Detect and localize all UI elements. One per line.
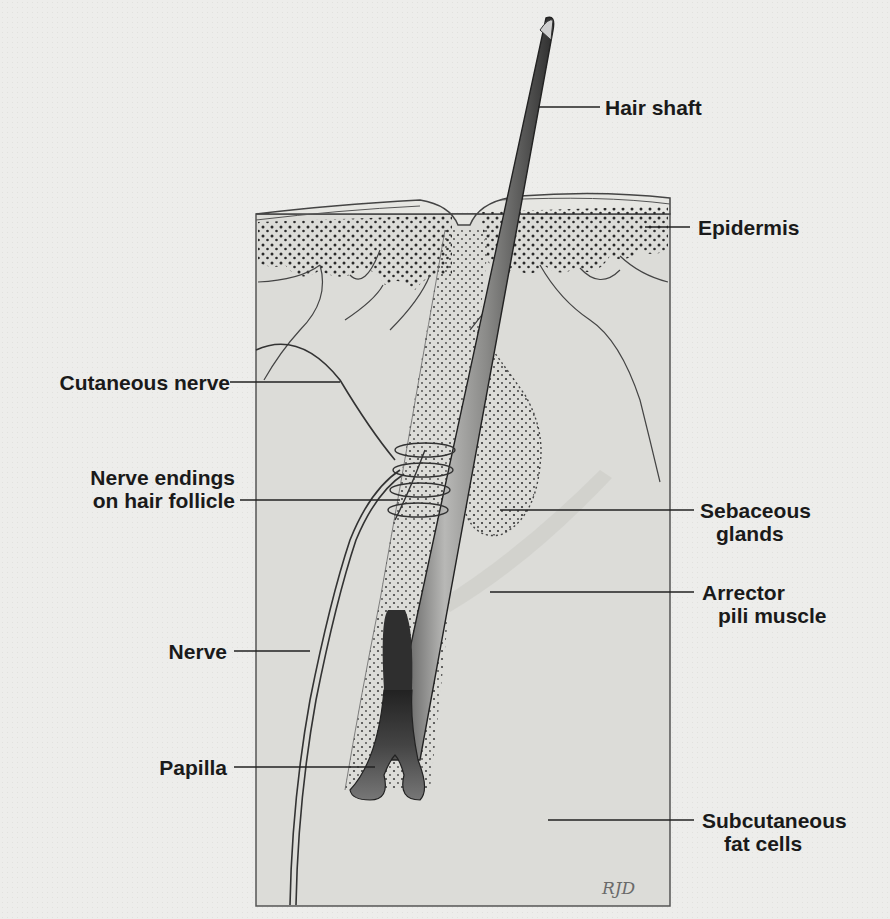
hair-follicle-illustration — [0, 0, 890, 919]
label-cutaneous-nerve: Cutaneous nerve — [20, 371, 230, 394]
label-subcutaneous-line1: Subcutaneous — [702, 809, 847, 832]
label-nerve-endings-line2: on hair follicle — [20, 489, 235, 512]
label-nerve-endings-line1: Nerve endings — [20, 466, 235, 489]
label-papilla: Papilla — [100, 756, 227, 779]
label-hair-shaft: Hair shaft — [605, 96, 702, 119]
label-arrector-line2: pili muscle — [718, 604, 827, 627]
label-arrector-line1: Arrector — [702, 581, 785, 604]
label-nerve: Nerve — [100, 640, 227, 663]
label-epidermis: Epidermis — [698, 216, 800, 239]
label-subcutaneous-line2: fat cells — [724, 832, 802, 855]
label-sebaceous-line1: Sebaceous — [700, 499, 811, 522]
artist-signature: RJD — [602, 878, 635, 898]
label-sebaceous-line2: glands — [716, 522, 784, 545]
